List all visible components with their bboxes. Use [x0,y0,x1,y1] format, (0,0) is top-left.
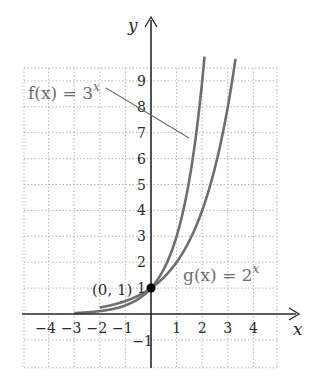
x-tick-label: −1 [112,320,133,336]
y-tick-label: 7 [137,125,146,141]
f-label-main: f(x) = 3 [28,83,93,103]
y-tick-label: 2 [137,254,146,270]
y-tick-label: 5 [137,177,146,193]
y-tick-label: 9 [137,73,146,89]
x-tick-label: −4 [35,320,56,336]
y-axis-label: y [127,15,138,35]
x-tick-label: 3 [223,320,232,336]
axes [22,17,299,368]
y-tick-label: 4 [137,202,146,218]
f-function-label: f(x) = 3x [28,80,100,103]
y-tick-label: −1 [132,333,153,349]
g-label-main: g(x) = 2 [183,265,253,285]
exponential-functions-chart: −4−3−2−11234−1123456789 f(x) = 3x g(x) =… [0,0,331,380]
x-axis-label: x [293,319,303,339]
x-tick-label: 4 [249,320,258,336]
g-function-label: g(x) = 2x [183,262,260,285]
y-tick-label: 8 [137,99,146,115]
y-tick-label: 3 [137,228,146,244]
x-tick-label: −3 [61,320,82,336]
f-label-exponent: x [93,80,100,94]
y-tick-label: 6 [137,151,146,167]
x-tick-label: −2 [86,320,107,336]
x-tick-label: 2 [198,320,207,336]
point-label: (0, 1) [92,281,132,299]
y-tick-label: 1 [137,280,146,296]
g-label-exponent: x [253,262,260,276]
f-label-leader-line [106,88,189,138]
intercept-point [147,284,156,293]
x-tick-label: 1 [172,320,181,336]
